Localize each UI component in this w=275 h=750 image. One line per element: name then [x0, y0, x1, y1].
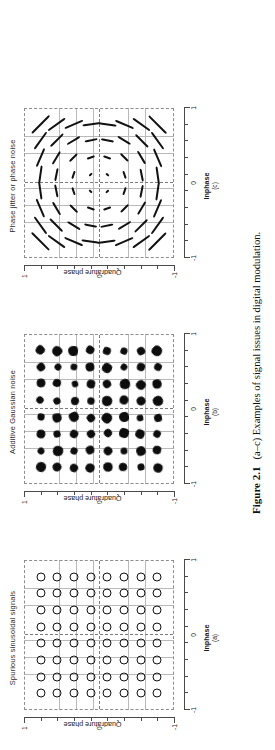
- constellation-symbol: [90, 190, 92, 192]
- constellation-symbol: [72, 206, 77, 211]
- figure-caption-text: (a–c) Examples of signal issues in digit…: [251, 232, 262, 460]
- constellation-symbol: [103, 589, 112, 598]
- panel-a-title: Spurious sinusoidal signals: [8, 540, 17, 736]
- panel-b-x-axis: [184, 334, 185, 484]
- constellation-symbol: [53, 689, 62, 698]
- constellation-symbol: [135, 445, 146, 456]
- constellation-symbol: [86, 672, 95, 681]
- constellation-symbol: [119, 672, 128, 681]
- constellation-symbol: [55, 155, 60, 162]
- constellation-symbol: [69, 239, 78, 244]
- constellation-symbol: [86, 123, 95, 126]
- constellation-symbol: [119, 606, 128, 615]
- panel-a-y-axis-label: Quadrature phase: [33, 720, 153, 729]
- x-tick-label: 1: [190, 558, 197, 562]
- constellation-symbol: [153, 414, 162, 423]
- constellation-symbol: [36, 606, 45, 615]
- constellation-symbol: [100, 411, 115, 426]
- constellation-symbol: [152, 236, 162, 246]
- constellation-symbol: [52, 429, 61, 438]
- constellation-symbol: [136, 238, 146, 245]
- constellation-symbol: [105, 157, 109, 159]
- constellation-symbol: [84, 345, 96, 357]
- constellation-symbol: [53, 672, 62, 681]
- constellation-symbol: [54, 138, 61, 145]
- constellation-symbol: [69, 122, 78, 127]
- constellation-symbol: [85, 445, 95, 455]
- constellation-symbol: [35, 361, 47, 373]
- constellation-symbol: [36, 655, 45, 664]
- constellation-symbol: [123, 173, 125, 177]
- constellation-symbol: [51, 461, 63, 473]
- y-tick-label: 1: [21, 492, 28, 504]
- constellation-symbol: [104, 223, 111, 226]
- constellation-symbol: [137, 414, 144, 421]
- constellation-symbol: [86, 240, 95, 243]
- constellation-symbol: [138, 155, 143, 162]
- constellation-symbol: [86, 606, 95, 615]
- constellation-symbol: [153, 639, 162, 648]
- panel-a-x-axis-label: Inphase: [202, 540, 211, 736]
- constellation-symbol: [100, 394, 114, 408]
- y-tick-label: 1: [21, 718, 28, 730]
- constellation-symbol: [70, 655, 79, 664]
- constellation-symbol: [154, 220, 161, 230]
- constellation-symbol: [53, 589, 62, 598]
- x-tick-label: 1: [190, 106, 197, 110]
- constellation-symbol: [70, 672, 79, 681]
- constellation-symbol: [102, 346, 112, 356]
- panel-a-x-axis: [184, 560, 185, 710]
- constellation-symbol: [119, 689, 128, 698]
- constellation-symbol: [85, 378, 97, 390]
- constellation-symbol: [153, 606, 162, 615]
- constellation-symbol: [35, 395, 45, 405]
- constellation-symbol: [136, 655, 145, 664]
- constellation-symbol: [70, 572, 79, 581]
- constellation-symbol: [155, 153, 160, 162]
- constellation-symbol: [73, 189, 75, 193]
- constellation-symbol: [139, 188, 142, 195]
- panel-c-plot: [24, 108, 174, 258]
- constellation-symbol: [151, 394, 165, 408]
- constellation-symbol: [70, 689, 79, 698]
- constellation-symbol: [154, 136, 161, 146]
- constellation-symbol: [120, 363, 129, 372]
- constellation-symbol: [119, 639, 128, 648]
- constellation-symbol: [118, 428, 129, 439]
- constellation-symbol: [106, 174, 108, 176]
- constellation-symbol: [36, 572, 45, 581]
- constellation-symbol: [152, 120, 162, 130]
- constellation-symbol: [86, 622, 95, 631]
- constellation-symbol: [153, 362, 163, 372]
- constellation-symbol: [136, 463, 145, 472]
- constellation-symbol: [52, 238, 62, 245]
- constellation-symbol: [153, 572, 162, 581]
- y-tick-label: 0: [96, 492, 103, 504]
- constellation-symbol: [103, 672, 112, 681]
- constellation-symbol: [69, 429, 79, 439]
- constellation-symbol: [103, 572, 112, 581]
- y-tick-label: -1: [171, 266, 178, 278]
- constellation-symbol: [73, 173, 75, 177]
- constellation-symbol: [36, 236, 46, 246]
- constellation-symbol: [136, 672, 145, 681]
- constellation-symbol: [36, 639, 45, 648]
- constellation-symbol: [34, 344, 47, 357]
- constellation-symbol: [36, 120, 46, 130]
- constellation-symbol: [52, 413, 62, 423]
- constellation-symbol: [120, 346, 129, 355]
- constellation-symbol: [84, 361, 96, 373]
- constellation-symbol: [37, 220, 44, 230]
- constellation-symbol: [120, 222, 127, 227]
- constellation-symbol: [52, 121, 62, 128]
- x-tick-label: -1: [190, 255, 197, 261]
- x-tick-label: -1: [190, 481, 197, 487]
- panel-a-symbols: [24, 560, 174, 710]
- constellation-symbol: [39, 170, 42, 179]
- constellation-symbol: [136, 589, 145, 598]
- constellation-symbol: [52, 397, 62, 407]
- constellation-symbol: [70, 139, 77, 144]
- constellation-symbol: [70, 222, 77, 227]
- constellation-symbol: [136, 639, 145, 648]
- constellation-symbol: [102, 461, 114, 473]
